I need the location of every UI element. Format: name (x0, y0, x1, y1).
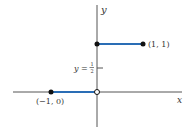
closed-dot-1-1 (141, 42, 146, 47)
half-label-den: 2 (91, 68, 94, 74)
step-function-diagram: y x (1, 1) (−1, 0) y = 1 2 (0, 0, 192, 135)
point-label-neg1-0: (−1, 0) (36, 97, 64, 106)
point-label-1-1: (1, 1) (148, 40, 170, 49)
half-label-prefix: y = (73, 64, 88, 73)
open-dot-origin (95, 90, 100, 95)
y-axis-label: y (100, 4, 107, 15)
closed-dot-origin-top (95, 42, 100, 47)
closed-dot-neg1-0 (49, 90, 54, 95)
half-label-num: 1 (91, 61, 94, 67)
x-axis-label: x (177, 95, 182, 105)
